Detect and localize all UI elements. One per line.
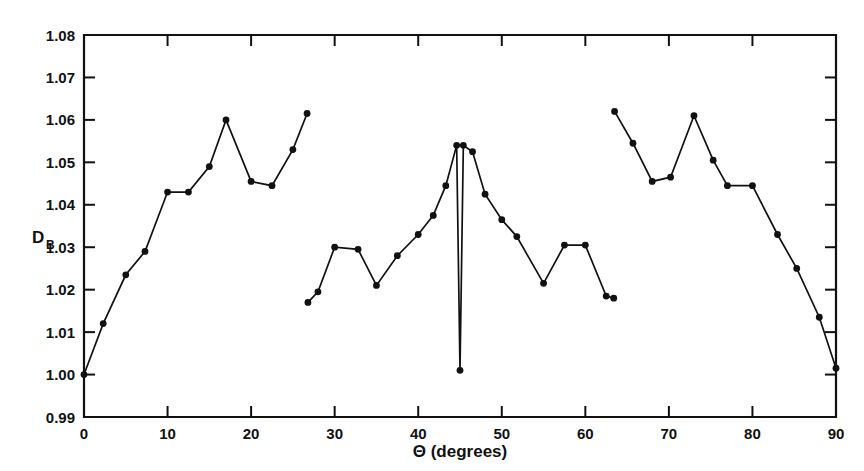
- y-tick-label: 1.08: [46, 27, 75, 44]
- data-point: [430, 212, 437, 219]
- data-point: [710, 157, 717, 164]
- x-tick-label: 50: [493, 425, 510, 442]
- y-axis-title: D: [32, 228, 44, 247]
- data-point: [667, 174, 674, 181]
- x-tick-label: 10: [159, 425, 176, 442]
- data-point: [561, 242, 568, 249]
- data-point: [164, 189, 171, 196]
- data-point: [649, 178, 656, 185]
- data-point: [331, 244, 338, 251]
- data-point: [81, 371, 88, 378]
- data-point: [394, 252, 401, 259]
- data-point: [469, 148, 476, 155]
- data-point: [373, 282, 380, 289]
- y-tick-label: 1.06: [46, 111, 75, 128]
- line-chart: 0.991.001.011.021.031.041.051.061.071.08…: [0, 0, 864, 471]
- chart-background: [0, 0, 864, 471]
- data-point: [142, 248, 149, 255]
- data-point: [442, 182, 449, 189]
- y-tick-label: 1.02: [46, 281, 75, 298]
- data-point: [206, 163, 213, 170]
- y-tick-label: 1.04: [46, 196, 76, 213]
- x-tick-label: 20: [243, 425, 260, 442]
- y-axis-title-subscript: B: [46, 238, 55, 252]
- x-tick-label: 70: [661, 425, 678, 442]
- data-point: [223, 116, 230, 123]
- data-point: [122, 271, 129, 278]
- y-tick-label: 1.00: [46, 366, 75, 383]
- data-point: [482, 191, 489, 198]
- data-point: [630, 140, 637, 147]
- data-point: [793, 265, 800, 272]
- data-point: [513, 233, 520, 240]
- y-tick-label: 1.05: [46, 154, 75, 171]
- data-point: [611, 108, 618, 115]
- x-tick-label: 60: [577, 425, 594, 442]
- data-point: [289, 146, 296, 153]
- data-point: [415, 231, 422, 238]
- data-point: [305, 299, 312, 306]
- data-point: [724, 182, 731, 189]
- data-point: [749, 182, 756, 189]
- x-tick-label: 30: [326, 425, 343, 442]
- data-point: [315, 288, 322, 295]
- data-point: [457, 367, 464, 374]
- y-tick-label: 1.01: [46, 324, 75, 341]
- data-point: [185, 189, 192, 196]
- data-point: [833, 365, 840, 372]
- x-axis-title: Θ (degrees): [413, 442, 507, 461]
- data-point: [540, 280, 547, 287]
- x-tick-label: 40: [410, 425, 427, 442]
- data-point: [816, 314, 823, 321]
- data-point: [248, 178, 255, 185]
- y-tick-label: 0.99: [46, 409, 75, 426]
- chart-figure: 0.991.001.011.021.031.041.051.061.071.08…: [0, 0, 864, 471]
- data-point: [498, 216, 505, 223]
- data-point: [100, 320, 107, 327]
- data-point: [691, 112, 698, 119]
- y-tick-label: 1.07: [46, 69, 75, 86]
- data-point: [355, 246, 362, 253]
- data-point: [582, 242, 589, 249]
- data-point: [774, 231, 781, 238]
- x-tick-label: 90: [828, 425, 845, 442]
- data-point: [610, 295, 617, 302]
- x-tick-label: 80: [744, 425, 761, 442]
- data-point: [304, 110, 311, 117]
- x-tick-label: 0: [80, 425, 88, 442]
- data-point: [269, 182, 276, 189]
- data-point: [603, 293, 610, 300]
